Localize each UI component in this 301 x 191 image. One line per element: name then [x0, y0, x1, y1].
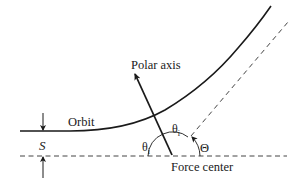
polar-axis-arrow [135, 74, 172, 155]
force-center-label: Force center [171, 160, 234, 174]
theta-i-left-arc [148, 134, 163, 156]
deflection-angle-label: Θ [200, 141, 209, 155]
orbit-label: Orbit [68, 115, 95, 129]
separation-label: S [39, 138, 46, 153]
scattering-orbit-diagram: Polar axis Orbit S θi θi Θ Force center [0, 0, 301, 191]
polar-axis-label: Polar axis [131, 58, 181, 72]
theta-i-right-label: θi [172, 122, 181, 138]
asymptote-dashed [191, 22, 288, 136]
subscript-i: i [148, 147, 151, 156]
theta-i-left-label: θi [142, 140, 151, 156]
deflection-angle-arc [192, 137, 200, 156]
